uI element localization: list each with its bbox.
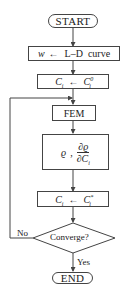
- end-terminal: END: [52, 272, 93, 284]
- no-branch-label: No: [17, 228, 28, 238]
- ld-curve-text: L–D curve: [65, 48, 111, 59]
- start-terminal: START: [48, 14, 98, 28]
- assign-arrow: ←: [69, 194, 79, 205]
- comma-separator: ,: [70, 147, 73, 158]
- w-variable: w: [38, 48, 45, 59]
- c-rhs: C0i: [84, 76, 91, 87]
- start-label: START: [56, 15, 91, 27]
- c-lhs: Ci: [55, 76, 63, 87]
- flowchart-diagram: START w ← L–D curve Ci ← C0i FEM ϱ , ∂ϱ …: [0, 0, 136, 301]
- rho-symbol: ϱ: [61, 147, 66, 158]
- assign-arrow: ←: [69, 76, 79, 87]
- fraction-denominator: ∂Ci: [77, 153, 90, 164]
- partial-derivative-fraction: ∂ϱ ∂Ci: [77, 141, 90, 164]
- fem-label: FEM: [64, 108, 85, 119]
- step-init-w-box: w ← L–D curve: [28, 46, 120, 61]
- step-update-c-box: Ci ← C*i: [37, 191, 109, 207]
- c-lhs: Ci: [55, 194, 63, 205]
- yes-branch-label: Yes: [77, 257, 90, 267]
- rho-derivative-box: ϱ , ∂ϱ ∂Ci: [42, 134, 109, 170]
- decision-label: Converge?: [50, 232, 89, 242]
- assign-arrow: ←: [49, 48, 59, 59]
- fem-box: FEM: [52, 105, 96, 121]
- fraction-numerator: ∂ϱ: [77, 141, 89, 153]
- end-label: END: [61, 272, 85, 284]
- c-rhs: C*i: [84, 194, 91, 205]
- step-init-c-box: Ci ← C0i: [37, 74, 109, 89]
